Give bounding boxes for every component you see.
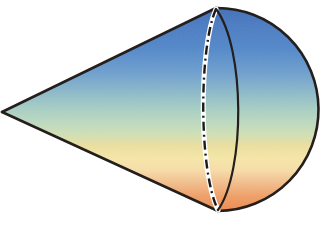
cone-figure (0, 0, 329, 230)
figure-container: Cone with spherical cap A three-dimensio… (0, 0, 329, 230)
